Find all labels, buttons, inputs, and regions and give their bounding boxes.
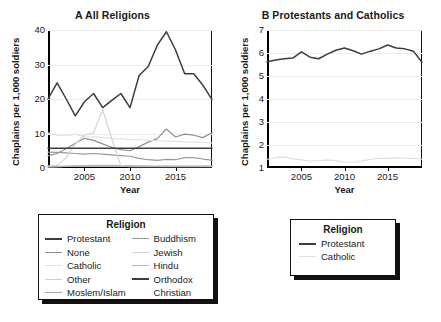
x-axis-tick-mark — [345, 168, 346, 171]
legend-a-column-2: BuddhismJewishHinduOrthodoxChristian — [132, 232, 207, 300]
panel-b-plot-area: 1234567200520102015 — [267, 30, 422, 168]
x-axis-tick-mark — [388, 168, 389, 171]
panel-a-y-axis-label: Chaplains per 1,000 soldiers — [10, 32, 21, 172]
legend-item[interactable]: Catholic — [299, 250, 387, 263]
panel-b-y-axis-label: Chaplains per 1,000 soldiers — [239, 32, 250, 172]
panel-a-all-religions: A All Religions Chaplains per 1,000 sold… — [0, 0, 225, 200]
legend-item-label: Other — [67, 274, 91, 285]
x-axis-tick-mark — [130, 168, 131, 171]
legend-item[interactable]: Protestant — [45, 232, 126, 246]
legend-swatch-icon — [132, 238, 149, 239]
legend-swatch-icon — [132, 278, 149, 280]
panel-a-x-axis-label: Year — [48, 184, 212, 195]
legend-swatch-icon — [45, 279, 62, 280]
legend-swatch-icon — [299, 243, 316, 245]
legend-item[interactable]: Catholic — [45, 259, 126, 273]
y-axis-tick-label: 1 — [259, 163, 264, 173]
legend-item-label: Protestant — [67, 233, 110, 244]
legend-swatch-icon — [132, 265, 149, 266]
x-axis-tick-mark — [301, 168, 302, 171]
legend-item[interactable]: None — [45, 246, 126, 260]
legend-swatch-icon — [45, 292, 62, 293]
y-axis-tick-label: 40 — [34, 25, 45, 35]
series-line-buddhism — [48, 152, 212, 160]
legend-swatch-icon — [45, 238, 62, 240]
series-line-catholic — [267, 157, 422, 162]
legend-item-label: Orthodox — [154, 274, 193, 285]
legend-swatch-icon — [299, 256, 316, 257]
legend-a-column-1: ProtestantNoneCatholicOtherMoslem/Islam — [45, 232, 126, 300]
y-axis-tick-label: 10 — [34, 129, 45, 139]
legend-item[interactable]: Hindu — [132, 259, 207, 273]
legend-b-title: Religion — [291, 220, 395, 237]
x-axis-tick-mark — [84, 168, 85, 171]
y-axis-tick-label: 20 — [34, 94, 45, 104]
legend-swatch-icon — [45, 265, 62, 266]
legend-item[interactable]: Protestant — [299, 237, 387, 250]
series-line-protestant — [48, 32, 212, 116]
legend-item[interactable]: Orthodox — [132, 273, 207, 287]
y-axis-tick-label: 4 — [259, 94, 264, 104]
x-axis-tick-label: 2005 — [291, 172, 312, 182]
legend-item[interactable]: Christian — [132, 286, 207, 300]
y-axis-tick-label: 5 — [259, 71, 264, 81]
legend-all-religions: Religion ProtestantNoneCatholicOtherMosl… — [38, 214, 214, 300]
series-layer — [48, 30, 212, 168]
legend-item-label: Catholic — [321, 251, 355, 262]
y-axis-tick-label: 0 — [40, 163, 45, 173]
x-axis-tick-label: 2010 — [334, 172, 355, 182]
legend-item-label: Buddhism — [154, 233, 196, 244]
legend-item[interactable]: Moslem/Islam — [45, 286, 126, 300]
legend-item[interactable]: Buddhism — [132, 232, 207, 246]
y-axis-tick-label: 7 — [259, 25, 264, 35]
panel-a-plot-area: 010203040200520102015 — [48, 30, 212, 168]
y-axis-tick-label: 6 — [259, 48, 264, 58]
x-axis-tick-label: 2015 — [377, 172, 398, 182]
series-line-protestant — [267, 45, 422, 62]
x-axis-tick-label: 2005 — [74, 172, 95, 182]
legend-item-label: Jewish — [154, 247, 183, 258]
panel-b-x-axis-label: Year — [267, 184, 422, 195]
x-axis-tick-mark — [176, 168, 177, 171]
legend-item[interactable]: Jewish — [132, 246, 207, 260]
legend-protestants-catholics: Religion ProtestantCatholic — [290, 219, 396, 276]
legend-b-column-1: ProtestantCatholic — [299, 237, 387, 263]
legend-swatch-icon — [132, 252, 149, 253]
panel-b-protestants-catholics: B Protestants and Catholics Chaplains pe… — [225, 0, 441, 200]
series-layer — [267, 30, 422, 168]
panel-a-title: A All Religions — [0, 9, 225, 21]
legend-item[interactable]: Other — [45, 273, 126, 287]
y-axis-tick-label: 2 — [259, 140, 264, 150]
legend-item-label: Christian — [154, 287, 192, 298]
x-axis-tick-label: 2015 — [165, 172, 186, 182]
legend-item-label: Catholic — [67, 260, 101, 271]
y-axis-tick-label: 3 — [259, 117, 264, 127]
x-axis-tick-label: 2010 — [119, 172, 140, 182]
legend-item-label: None — [67, 247, 90, 258]
legend-item-label: Moslem/Islam — [67, 287, 126, 298]
y-axis-tick-label: 30 — [34, 60, 45, 70]
legend-swatch-icon — [45, 252, 62, 253]
legend-a-title: Religion — [39, 215, 213, 232]
legend-item-label: Hindu — [154, 260, 179, 271]
panel-b-title: B Protestants and Catholics — [225, 9, 441, 21]
legend-item-label: Protestant — [321, 238, 364, 249]
